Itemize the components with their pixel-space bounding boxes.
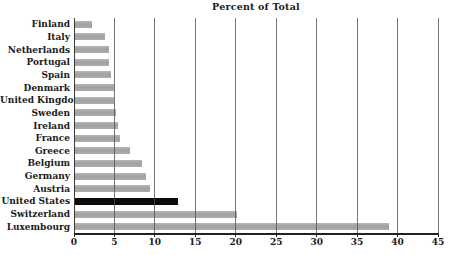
gridline [276, 18, 277, 233]
category-label: Switzerland [0, 208, 70, 220]
bar [74, 97, 114, 104]
bar [74, 147, 130, 154]
bar-chart: Percent of Total FinlandItalyNetherlands… [0, 0, 452, 255]
x-axis-line [74, 233, 439, 235]
x-tick-label: 15 [184, 237, 206, 247]
y-axis-line [74, 18, 76, 233]
gridline [438, 18, 439, 233]
bar [74, 185, 150, 192]
category-label: Luxembourg [0, 221, 70, 233]
x-tick-label: 5 [103, 237, 125, 247]
x-tick-label: 40 [387, 237, 409, 247]
x-tick-label: 10 [144, 237, 166, 247]
gridline [235, 18, 236, 233]
bar [74, 59, 109, 66]
bar [74, 173, 146, 180]
bar [74, 122, 118, 129]
gridline [316, 18, 317, 233]
category-label: Netherlands [0, 44, 70, 56]
category-label: Austria [0, 183, 70, 195]
bar [74, 160, 142, 167]
category-label: Ireland [0, 120, 70, 132]
gridline [114, 18, 115, 233]
category-label: Italy [0, 31, 70, 43]
bar [74, 46, 109, 53]
category-label: Portugal [0, 56, 70, 68]
bar [74, 71, 111, 78]
gridline [397, 18, 398, 233]
gridline [357, 18, 358, 233]
gridline [195, 18, 196, 233]
bar [74, 84, 114, 91]
gridline [154, 18, 155, 233]
category-label: Denmark [0, 82, 70, 94]
bar [74, 21, 92, 28]
x-tick-label: 25 [265, 237, 287, 247]
bar [74, 109, 116, 116]
bar [74, 33, 105, 40]
x-tick-label: 35 [346, 237, 368, 247]
x-tick-label: 45 [427, 237, 449, 247]
category-label: Sweden [0, 107, 70, 119]
category-label: France [0, 132, 70, 144]
category-label: Germany [0, 170, 70, 182]
x-tick-label: 30 [306, 237, 328, 247]
bar-highlighted [74, 198, 178, 205]
x-tick-label: 20 [225, 237, 247, 247]
x-tick-label: 0 [63, 237, 85, 247]
category-label: Finland [0, 18, 70, 30]
category-label: United Kingdom [0, 94, 70, 106]
category-label: United States [0, 195, 70, 207]
bar [74, 223, 389, 230]
category-label: Greece [0, 145, 70, 157]
category-label: Spain [0, 69, 70, 81]
category-label: Belgium [0, 157, 70, 169]
chart-title: Percent of Total [74, 1, 438, 12]
